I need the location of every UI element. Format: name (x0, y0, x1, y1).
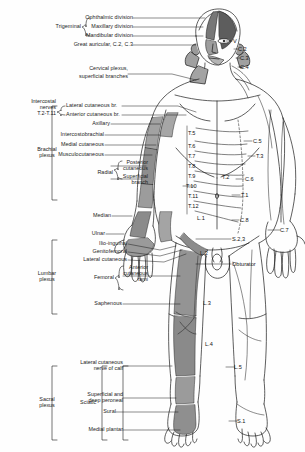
dermatome-label-t-9: T.9 (188, 173, 195, 179)
label-musculocutaneous: Musculocutaneous (58, 152, 104, 158)
dermatome-label-t-10: T.10 (186, 183, 197, 189)
dermatome-label-t-8: T.8 (188, 163, 195, 169)
label-superficial-branch: Superficial branch (123, 174, 148, 186)
right-arm (258, 96, 305, 278)
dermatome-label-c-4: C.4 (240, 64, 249, 70)
label-posterior-cutaneous: Posterior cutaneous (123, 160, 148, 172)
dermatome-label-l-3: L.3 (203, 300, 211, 306)
label-ulnar: Ulnar (92, 231, 105, 237)
label-maxillary-division: Maxillary division (91, 24, 133, 30)
dermatome-label-t-1: T.1 (241, 192, 248, 198)
label-great-auricular: Great auricular, C.2, C.3 (74, 42, 133, 48)
label-medial-plantar: Medial plantar (88, 427, 123, 433)
group-braces (52, 18, 128, 440)
dermatome-label-s-2-3: S.2,3 (232, 236, 245, 242)
label-medial-cutaneous: Medial cutaneous (61, 142, 104, 148)
label-median: Median (93, 213, 111, 219)
label-lumbar-plexus: Lumbar plexus (38, 271, 56, 283)
label-superficial-deep-peroneal: Superficial and deep peroneal (87, 392, 123, 404)
label-ophthalmic-division: Ophthalmic division (85, 15, 133, 21)
label-lateral-cutaneous: Lateral cutaneous (83, 257, 127, 263)
dermatome-label-t-6: T.6 (188, 143, 195, 149)
label-cervical-plexus-branches: superficial branches (79, 74, 128, 80)
dermatome-label-t-3: T.3 (256, 153, 263, 159)
dermatome-figure: Ophthalmic division Maxillary division M… (0, 0, 305, 452)
dermatome-label-c-5: C.5 (253, 138, 262, 144)
label-axillary: Axillary (92, 121, 110, 127)
dermatome-label-t-11: T.11 (188, 193, 198, 199)
label-femoral-group: Femoral (94, 275, 114, 281)
dermatome-label-c-6: C.6 (245, 176, 254, 182)
dermatome-label-c-2: C.2 (238, 46, 247, 52)
dermatome-label-t-12: T.12 (188, 203, 199, 209)
dermatome-label-t-2: T.2 (222, 174, 229, 180)
dermatome-label-l-5: L.5 (234, 364, 242, 370)
dermatome-label-l-2: L.2 (200, 250, 208, 256)
label-lateral-cutaneous-br: Lateral cutaneous br. (66, 103, 117, 109)
dermatome-label-c-7: C.7 (280, 227, 289, 233)
dermatome-label-t-7: T.7 (188, 153, 195, 159)
dermatome-label-c-8: C.8 (240, 217, 249, 223)
label-lateral-cutaneous-nerve-of-calf: Lateral cutaneous nerve of calf (80, 360, 123, 372)
dermatome-label-t-5: T.5 (188, 130, 195, 136)
label-brachial-plexus: Brachial plexus (37, 147, 56, 159)
label-intercostobrachial: Intercostobrachial (61, 132, 104, 138)
label-saphenous: Saphenous (94, 301, 122, 307)
dermatome-label-s-1: S.1 (237, 418, 245, 424)
label-trigeminal-group: Trigeminal (56, 24, 81, 30)
dermatome-label-v: V (233, 38, 237, 44)
label-anterior-cutaneous-rami: Anterior cutaneous rami (123, 265, 148, 283)
dermatome-label-c-3: C.3 (240, 55, 249, 61)
dermatome-label-obturator: Obturator (232, 261, 256, 267)
label-mandibular-division: Mandibular division (86, 33, 133, 39)
label-radial-group: Radial (97, 170, 113, 176)
label-intercostal-nerves: Intercostal nerves T.2-T.11 (31, 99, 56, 117)
dermatome-label-l-1: L.1 (197, 215, 205, 221)
label-genitofemoral: Genitofemoral (92, 249, 127, 255)
label-sural: Sural (103, 409, 116, 415)
label-sacral-plexus: Sacral plexus (39, 397, 55, 409)
label-anterior-cutaneous-br: Anterior cutaneous br. (66, 112, 120, 118)
perineum (205, 248, 230, 278)
label-cervical-plexus: Cervical plexus, (89, 66, 128, 72)
dermatome-label-l-4: L.4 (205, 341, 213, 347)
label-ilio-inguinal: Ilio-inguinal (99, 241, 127, 247)
anatomy-illustration (0, 0, 305, 452)
